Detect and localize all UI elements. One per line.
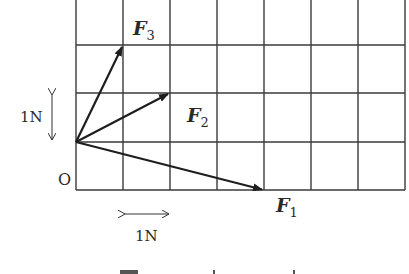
vertical-scale-label: 1N	[20, 108, 43, 126]
caption-cutoff	[120, 270, 295, 274]
vector-f3	[76, 47, 122, 142]
horizontal-scale-label: 1N	[135, 227, 158, 245]
label-f1: F1	[276, 194, 298, 220]
scale-markers	[52, 95, 169, 214]
vector-f2	[76, 94, 168, 142]
label-f3: F3	[133, 17, 155, 43]
origin-label: O	[58, 170, 71, 189]
force-diagram	[0, 0, 409, 274]
vector-f1	[76, 142, 262, 190]
vectors	[76, 47, 262, 190]
grid	[76, 0, 405, 190]
label-f2: F2	[187, 104, 209, 130]
